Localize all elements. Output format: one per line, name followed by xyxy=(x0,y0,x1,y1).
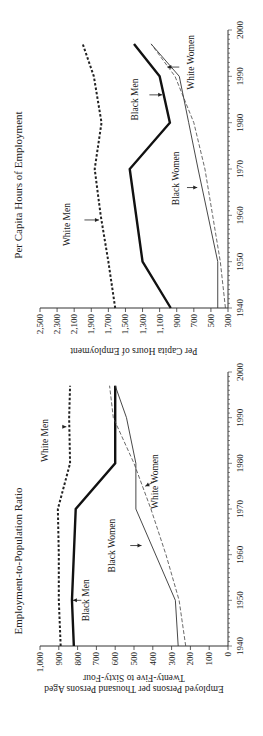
x-tick-label: 1970 xyxy=(235,160,245,179)
arrow-head-icon xyxy=(73,598,77,602)
y-tick-label: 1,900 xyxy=(86,314,96,335)
x-tick-label: 2000 xyxy=(235,21,245,40)
y-tick-label: 1,300 xyxy=(138,314,148,335)
series-label: White Women xyxy=(150,454,160,509)
series-label: White Women xyxy=(186,35,196,90)
arrow-head-icon xyxy=(193,186,197,190)
x-tick-label: 1980 xyxy=(235,454,245,473)
series-label: Black Women xyxy=(107,518,117,572)
top-axes: 1940195019601970198019902000300500700900… xyxy=(35,21,245,357)
series-label: Black Men xyxy=(130,78,140,120)
y-tick-label: 500 xyxy=(206,314,216,328)
y-axis-label: Employed Persons per Thousand Persons Ag… xyxy=(44,684,224,694)
y-tick-label: 900 xyxy=(172,314,182,328)
arrow-head-icon xyxy=(62,425,66,429)
x-tick-label: 1950 xyxy=(235,591,245,610)
y-axis-label: Per Capita Hours of Employment xyxy=(70,346,198,356)
y-tick-label: 400 xyxy=(148,652,158,666)
x-tick-label: 1990 xyxy=(235,408,245,427)
series-white-men xyxy=(83,44,115,308)
y-tick-label: 700 xyxy=(91,652,101,666)
x-tick-label: 1960 xyxy=(235,545,245,564)
y-tick-label: 800 xyxy=(73,652,83,666)
y-tick-label: 500 xyxy=(129,652,139,666)
series-black-women xyxy=(115,386,178,646)
y-tick-label: 1,500 xyxy=(120,314,130,335)
arrow-head-icon xyxy=(158,93,162,97)
series-white-men xyxy=(58,386,70,646)
series-label: Black Women xyxy=(171,151,181,205)
y-tick-label: 1,000 xyxy=(35,652,45,673)
y-tick-label: 2,300 xyxy=(52,314,62,335)
top-chart: 1940195019601970198019902000300500700900… xyxy=(12,21,245,357)
bottom-axes: 1940195019601970198019902000010020030040… xyxy=(35,363,245,695)
y-tick-label: 200 xyxy=(185,652,195,666)
y-tick-label: 2,500 xyxy=(35,314,45,335)
y-tick-label: 0 xyxy=(223,652,233,657)
bottom-chart: 1940195019601970198019902000010020030040… xyxy=(12,363,245,695)
x-tick-label: 2000 xyxy=(235,363,245,382)
figure: 1940195019601970198019902000300500700900… xyxy=(0,0,263,736)
y-tick-label: 1,700 xyxy=(103,314,113,335)
y-tick-label: 700 xyxy=(189,314,199,328)
x-tick-label: 1980 xyxy=(235,113,245,132)
y-tick-label: 300 xyxy=(223,314,233,328)
top-title: Per Capita Hours of Employment xyxy=(12,111,24,258)
series-label: Black Men xyxy=(81,579,91,621)
x-tick-label: 1950 xyxy=(235,252,245,271)
arrow-head-icon xyxy=(95,218,99,222)
y-tick-label: 900 xyxy=(54,652,64,666)
y-tick-label: 100 xyxy=(204,652,214,666)
x-tick-label: 1960 xyxy=(235,206,245,225)
series-white-women xyxy=(110,386,186,646)
y-axis-label: Twenty-Five to Sixty-Four xyxy=(82,673,185,683)
series-black-men xyxy=(72,386,115,646)
x-tick-label: 1940 xyxy=(235,637,245,656)
x-tick-label: 1990 xyxy=(235,67,245,86)
bottom-title: Employment-to-Population Ratio xyxy=(12,487,24,634)
y-tick-label: 300 xyxy=(167,652,177,666)
x-tick-label: 1940 xyxy=(235,299,245,318)
y-tick-label: 1,100 xyxy=(155,314,165,335)
y-tick-label: 600 xyxy=(110,652,120,666)
series-label: White Men xyxy=(40,419,50,462)
y-tick-label: 2,100 xyxy=(69,314,79,335)
series-label: White Men xyxy=(62,203,72,246)
x-tick-label: 1970 xyxy=(235,500,245,519)
arrow-head-icon xyxy=(138,544,142,548)
